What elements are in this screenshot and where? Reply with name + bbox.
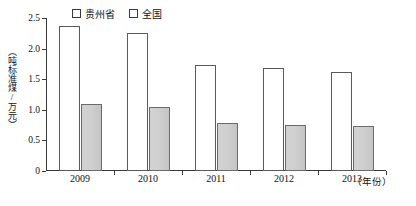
x-axis-category-label: 2012 (250, 174, 318, 184)
bar-provincial (59, 26, 80, 171)
x-axis-category-label: 2009 (46, 174, 114, 184)
x-axis-category-label: 2010 (114, 174, 182, 184)
bar-group: 2011 (182, 18, 250, 171)
bar-national (285, 125, 306, 172)
y-tick-label: 0.5 (28, 136, 40, 146)
y-tick-label: 2.0 (28, 45, 40, 55)
bar-provincial (195, 65, 216, 171)
y-tick-label: 1.0 (28, 106, 40, 116)
bar-provincial (127, 33, 148, 171)
legend-swatch-white-icon (72, 9, 81, 18)
plot-area: 00.51.01.52.02.5 20092010201120122013 (46, 18, 394, 171)
y-tick-label: 2.5 (28, 14, 40, 24)
y-axis-unit-label: （吨标准煤/万元） (1, 8, 17, 168)
bar-chart: （吨标准煤/万元） 贵州省 全国 00.51.01.52.02.5 200920… (0, 0, 416, 206)
bar-group: 2013 (318, 18, 386, 171)
bar-provincial (331, 72, 352, 171)
bar-provincial (263, 68, 284, 171)
y-tick-label: 1.5 (28, 75, 40, 85)
bar-group: 2009 (46, 18, 114, 171)
bar-national (149, 107, 170, 171)
x-axis-unit-label: （年份） (352, 174, 392, 188)
bar-national (353, 126, 374, 171)
bar-group: 2012 (250, 18, 318, 171)
y-tick-label: 0 (35, 167, 40, 177)
bar-group: 2010 (114, 18, 182, 171)
legend-swatch-gray-icon (129, 9, 138, 18)
bar-national (81, 104, 102, 171)
x-axis-category-label: 2011 (182, 174, 250, 184)
bar-national (217, 123, 238, 171)
y-tick-mark (42, 171, 46, 172)
